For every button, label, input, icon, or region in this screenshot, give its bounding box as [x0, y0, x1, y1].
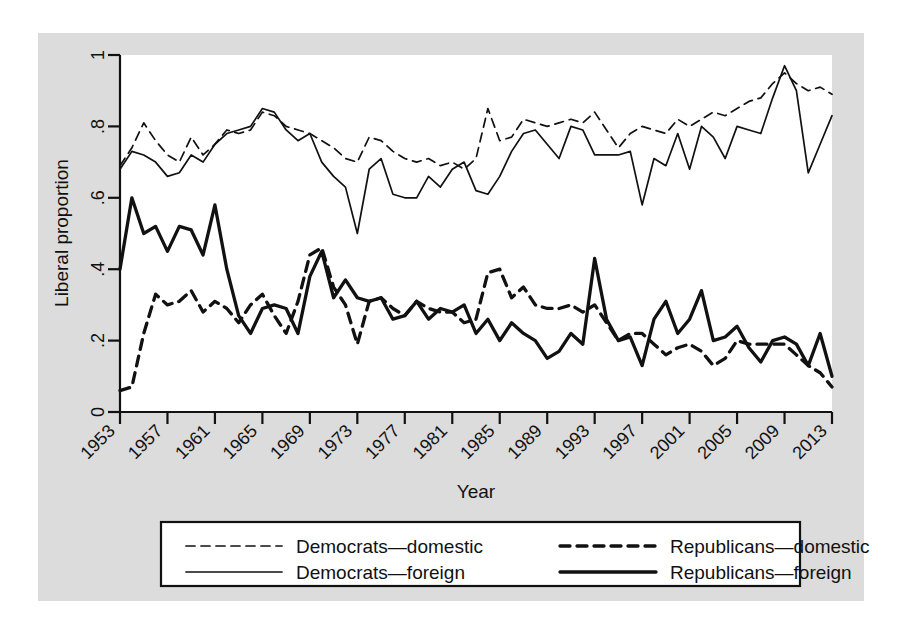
x-tick-label: 1965 — [219, 421, 261, 463]
y-tick-label: .6 — [88, 190, 108, 205]
legend-label[interactable]: Republicans—foreign — [670, 562, 852, 583]
x-tick-label: 1989 — [504, 421, 546, 463]
x-tick-label: 1981 — [409, 421, 451, 463]
x-tick-label: 1969 — [266, 421, 308, 463]
x-tick-label: 1985 — [456, 421, 498, 463]
x-tick-label: 1977 — [361, 421, 403, 463]
legend-label[interactable]: Democrats—domestic — [296, 536, 483, 557]
x-tick-label: 2005 — [693, 421, 735, 463]
y-tick-label: .4 — [88, 262, 108, 277]
x-tick-label: 2009 — [741, 421, 783, 463]
y-tick-label: .2 — [88, 333, 108, 348]
chart-legend: Democrats—domesticRepublicans—domesticDe… — [161, 522, 870, 586]
x-tick-label: 1957 — [124, 421, 166, 463]
legend-label[interactable]: Democrats—foreign — [296, 562, 465, 583]
x-axis-label: Year — [457, 481, 496, 502]
chart-page: 0.2.4.6.81 19531957196119651969197319771… — [0, 0, 897, 643]
y-tick-label: .8 — [88, 119, 108, 134]
y-axis-label: Liberal proportion — [51, 159, 72, 307]
x-tick-label: 1997 — [599, 421, 641, 463]
x-tick-label: 1993 — [551, 421, 593, 463]
y-tick-label: 1 — [88, 50, 108, 60]
x-tick-label: 1953 — [76, 421, 118, 463]
x-tick-label: 2013 — [788, 421, 830, 463]
y-tick-label: 0 — [88, 407, 108, 417]
x-tick-label: 1961 — [171, 421, 213, 463]
legend-label[interactable]: Republicans—domestic — [670, 536, 870, 557]
y-axis-ticks: 0.2.4.6.81 — [88, 50, 120, 417]
x-axis-ticks: 1953195719611965196919731977198119851989… — [76, 412, 832, 463]
x-tick-label: 1973 — [314, 421, 356, 463]
x-tick-label: 2001 — [646, 421, 688, 463]
liberal-proportion-line-chart: 0.2.4.6.81 19531957196119651969197319771… — [0, 0, 897, 643]
